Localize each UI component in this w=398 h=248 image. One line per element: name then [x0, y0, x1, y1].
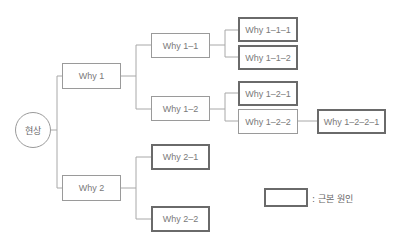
why-2-1-node: Why 2–1: [151, 144, 210, 170]
why-1-2-2-node: Why 1–2–2: [238, 109, 298, 134]
why-1-1-1-node: Why 1–1–1: [238, 17, 298, 42]
legend-label: : 근본 원인: [312, 192, 353, 205]
why-2-2-node: Why 2–2: [151, 206, 210, 232]
why-1-1-2-node: Why 1–1–2: [238, 45, 298, 70]
why-2-node: Why 2: [62, 175, 121, 201]
why-1-2-1-node: Why 1–2–1: [238, 81, 298, 106]
why-1-2-2-1-node: Why 1–2–2–1: [317, 109, 386, 134]
why-1-1-node: Why 1–1: [151, 33, 210, 58]
why-1-node: Why 1: [62, 63, 121, 89]
phenomenon-node: 현상: [15, 112, 51, 148]
why-1-2-node: Why 1–2: [151, 96, 210, 121]
legend-root-cause-swatch: [264, 188, 308, 207]
why-tree-diagram: 현상 Why 1 Why 2 Why 1–1 Why 1–2 Why 2–1 W…: [0, 0, 398, 248]
